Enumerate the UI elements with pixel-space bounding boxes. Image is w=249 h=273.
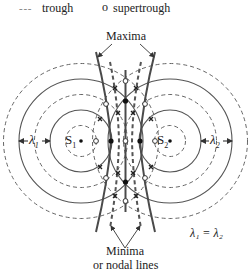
equality-label: λ₁ = λ₂ [190,227,223,239]
minima-label-line1: Minima [106,245,144,257]
minima-label-line2: or nodal lines [93,259,158,271]
source2-dot [168,139,172,143]
lambda1-subscript: 1 [35,141,39,150]
lambda1-label: λ1 [29,134,39,152]
source2-label: S2 [157,134,168,152]
lambda2-subscript: 2 [216,141,220,150]
source1-dot [79,139,83,143]
source1-label: S1 [65,134,76,152]
maxima-arrows [98,44,154,57]
lambda2-label: λ2 [210,134,220,152]
source1-subscript: 1 [72,141,76,150]
maxima-label: Maxima [106,30,146,42]
source2-subscript: 2 [164,141,168,150]
